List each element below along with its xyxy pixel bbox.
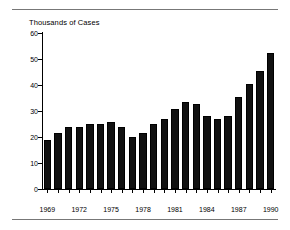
- category-axis-tick: [58, 190, 59, 193]
- bar: [246, 84, 253, 189]
- bar: [54, 133, 61, 189]
- bar: [76, 127, 83, 189]
- category-axis-tick-label: 1969: [32, 206, 62, 214]
- bar: [171, 109, 178, 189]
- chart-figure: Thousands of Cases 0102030405060 1969197…: [0, 0, 290, 230]
- category-axis-tick: [260, 190, 261, 193]
- category-axis-tick: [79, 190, 80, 193]
- bar: [86, 124, 93, 189]
- category-axis-tick: [249, 190, 250, 193]
- category-axis-tick-label: 1978: [128, 206, 158, 214]
- bar: [65, 127, 72, 189]
- bar: [118, 127, 125, 189]
- category-axis-tick: [122, 190, 123, 193]
- bar: [150, 124, 157, 189]
- category-axis-tick: [111, 190, 112, 193]
- bar: [182, 102, 189, 189]
- category-axis-tick: [154, 190, 155, 193]
- bar-series: [42, 33, 276, 189]
- bottom-divider-rule: [12, 219, 278, 220]
- category-axis-tick: [207, 190, 208, 193]
- value-axis-tick-label: 60: [0, 30, 38, 37]
- category-axis-tick-label: 1975: [96, 206, 126, 214]
- category-axis-tick: [132, 190, 133, 193]
- bar: [107, 122, 114, 189]
- category-axis-tick-label: 1987: [224, 206, 254, 214]
- bar: [214, 119, 221, 189]
- category-axis-tick-label: 1972: [64, 206, 94, 214]
- bar: [44, 140, 51, 189]
- value-axis-tick: [38, 189, 42, 190]
- bar: [129, 137, 136, 189]
- bar: [235, 97, 242, 189]
- bar: [224, 116, 231, 189]
- chart-axis-title: Thousands of Cases: [29, 18, 100, 27]
- category-axis-tick: [175, 190, 176, 193]
- category-axis-tick: [90, 190, 91, 193]
- value-axis-tick-label: 0: [0, 186, 38, 193]
- bar: [97, 124, 104, 189]
- bar: [256, 71, 263, 189]
- category-axis-tick: [164, 190, 165, 193]
- bar: [203, 116, 210, 189]
- bar: [267, 53, 274, 189]
- category-axis-tick: [186, 190, 187, 193]
- category-axis-tick: [69, 190, 70, 193]
- category-axis-tick: [239, 190, 240, 193]
- category-axis-tick: [218, 190, 219, 193]
- category-axis-tick: [101, 190, 102, 193]
- value-axis-tick-label: 10: [0, 160, 38, 167]
- value-axis-tick-label: 20: [0, 134, 38, 141]
- category-axis-tick-label: 1990: [256, 206, 286, 214]
- category-axis-tick-label: 1984: [192, 206, 222, 214]
- top-divider-rule: [12, 9, 278, 10]
- bar: [193, 104, 200, 189]
- category-axis-line: [42, 189, 276, 190]
- value-axis-tick-label: 50: [0, 56, 38, 63]
- category-axis-tick: [47, 190, 48, 193]
- bar: [139, 133, 146, 189]
- category-axis-tick-label: 1981: [160, 206, 190, 214]
- value-axis-tick-label: 30: [0, 108, 38, 115]
- category-axis-tick: [196, 190, 197, 193]
- value-axis-tick-label: 40: [0, 82, 38, 89]
- category-axis-tick: [271, 190, 272, 193]
- category-axis-tick: [228, 190, 229, 193]
- bar: [161, 119, 168, 189]
- category-axis-tick: [143, 190, 144, 193]
